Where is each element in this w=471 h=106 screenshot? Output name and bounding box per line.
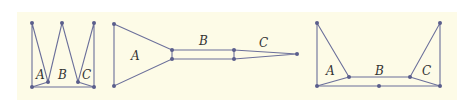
vertex [377, 84, 381, 88]
region-label-c: C [422, 64, 431, 78]
vertex [46, 80, 50, 84]
region-label-b: B [57, 68, 67, 82]
region-label-b: B [198, 34, 208, 48]
vertex [315, 84, 319, 88]
vertex [408, 75, 412, 79]
vertex [92, 21, 96, 25]
region-label-a: A [35, 68, 45, 82]
vertex [170, 57, 174, 61]
vertex [112, 84, 116, 88]
vertex [232, 48, 236, 52]
region-label-c: C [259, 36, 268, 50]
vertex [60, 21, 64, 25]
vertex [30, 85, 34, 89]
region-label-a: A [325, 64, 335, 78]
vertex [438, 84, 442, 88]
figure-2-funnel: A B C [112, 22, 299, 88]
vertex [232, 57, 236, 61]
region-label-a: A [130, 49, 140, 63]
vertex [295, 52, 299, 56]
vertex [438, 21, 442, 25]
vertex [92, 85, 96, 89]
diagram-canvas: A B C A B C A B C [0, 0, 471, 106]
region-label-b: B [374, 64, 384, 78]
vertex [112, 22, 116, 26]
vertex [170, 48, 174, 52]
vertex [30, 21, 34, 25]
vertex [76, 80, 80, 84]
vertex [347, 75, 351, 79]
figure-1-zigzag: A B C [30, 21, 96, 89]
region-label-c: C [82, 68, 91, 82]
vertex [315, 21, 319, 25]
figure-3-trough: A B C [315, 21, 442, 88]
